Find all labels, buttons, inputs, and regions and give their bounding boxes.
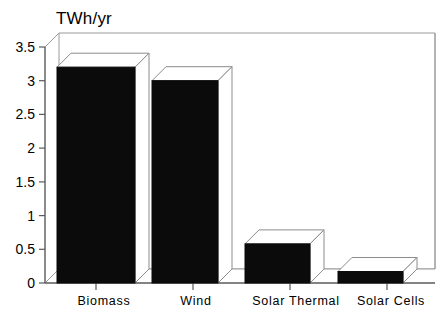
bar-biomass-side-face xyxy=(135,53,149,283)
y-tick-label-0: 0 xyxy=(27,275,35,291)
y-tick-label-3.5: 3.5 xyxy=(16,39,36,55)
y-tick-label-2: 2 xyxy=(27,140,35,156)
bar-solar-thermal[interactable] xyxy=(245,230,324,283)
bar-biomass[interactable] xyxy=(57,53,149,283)
bar-solar-thermal-front-face xyxy=(245,244,310,283)
x-tick-label-solar-cells: Solar Cells xyxy=(357,294,425,308)
bar-wind[interactable] xyxy=(152,67,232,283)
chart-canvas: TWh/yr 3.5 3 2.5 2 1.5 1 0.5 0 Biomass W… xyxy=(0,0,447,315)
bar-solar-cells-front-face xyxy=(338,272,403,284)
y-tick-label-2.5: 2.5 xyxy=(16,106,36,122)
x-tick-label-wind: Wind xyxy=(180,294,211,308)
y-tick-label-1.5: 1.5 xyxy=(16,174,36,190)
bar-biomass-front-face xyxy=(57,67,135,283)
y-tick-label-3: 3 xyxy=(27,73,35,89)
bar-chart: TWh/yr 3.5 3 2.5 2 1.5 1 0.5 0 Biomass W… xyxy=(0,0,447,315)
y-tick-label-1: 1 xyxy=(27,208,35,224)
x-tick-label-solar-thermal: Solar Thermal xyxy=(252,294,339,308)
bar-wind-front-face xyxy=(152,81,218,283)
x-axis xyxy=(45,283,435,290)
wall-left-edge xyxy=(45,33,59,47)
bar-biomass-top-face xyxy=(57,53,149,67)
y-axis xyxy=(39,47,45,283)
bar-solar-cells[interactable] xyxy=(338,258,417,284)
bar-wind-side-face xyxy=(218,67,232,283)
x-tick-label-biomass: Biomass xyxy=(78,294,131,308)
y-tick-label-0.5: 0.5 xyxy=(16,241,36,257)
chart-title: TWh/yr xyxy=(56,9,112,28)
